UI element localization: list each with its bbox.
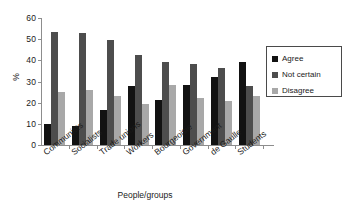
legend-item[interactable]: Disagree xyxy=(272,83,337,99)
bar-not-certain xyxy=(51,32,58,145)
y-axis-tick-label: 60 xyxy=(0,14,36,23)
legend-swatch-icon xyxy=(272,72,278,78)
bar-not-certain xyxy=(218,68,225,145)
bar-not-certain xyxy=(190,64,197,145)
legend-label: Agree xyxy=(282,55,303,63)
bar-group xyxy=(41,18,69,145)
bar-not-certain xyxy=(162,62,169,145)
y-axis-title: % xyxy=(11,57,21,97)
legend-swatch-icon xyxy=(272,56,278,62)
y-axis-tick xyxy=(38,145,42,146)
legend-item[interactable]: Agree xyxy=(272,51,337,67)
legend-label: Disagree xyxy=(282,87,314,95)
bar-group xyxy=(235,18,263,145)
bar-not-certain xyxy=(107,40,114,145)
y-axis-tick-label: 50 xyxy=(0,35,36,44)
bar-chart-figure: 0102030405060 % CommunistsSocialistsTrad… xyxy=(0,0,346,212)
y-axis-tick-label: 20 xyxy=(0,99,36,108)
bar-group xyxy=(97,18,125,145)
legend-item[interactable]: Not certain xyxy=(272,67,337,83)
x-axis-tick xyxy=(263,145,264,149)
chart-legend: AgreeNot certainDisagree xyxy=(266,46,342,97)
bar-group xyxy=(152,18,180,145)
y-axis-tick-label: 0 xyxy=(0,141,36,150)
bar-agree xyxy=(100,110,107,145)
x-axis-title: People/groups xyxy=(0,190,290,200)
legend-label: Not certain xyxy=(282,71,321,79)
bar-agree xyxy=(155,100,162,146)
legend-swatch-icon xyxy=(272,88,278,94)
y-axis-tick-label: 10 xyxy=(0,120,36,129)
